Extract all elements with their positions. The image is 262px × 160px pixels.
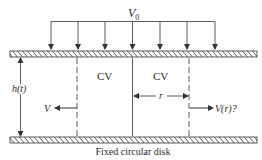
left-velocity-label: V <box>44 103 52 114</box>
cv-left-label: CV <box>97 70 112 82</box>
velocity-load-arrows <box>51 22 215 50</box>
squeeze-film-diagram: V0 h(t) CV CV r V V(r)? Fixed circular d… <box>0 0 262 160</box>
right-velocity-label: V(r)? <box>215 103 237 115</box>
caption: Fixed circular disk <box>96 146 171 157</box>
radius-label: r <box>159 90 163 101</box>
cv-right-label: CV <box>153 70 168 82</box>
v0-label: V0 <box>128 6 139 22</box>
top-plate <box>10 51 257 57</box>
bottom-fixed-disk <box>10 137 257 143</box>
gap-height-label: h(t) <box>12 83 27 95</box>
